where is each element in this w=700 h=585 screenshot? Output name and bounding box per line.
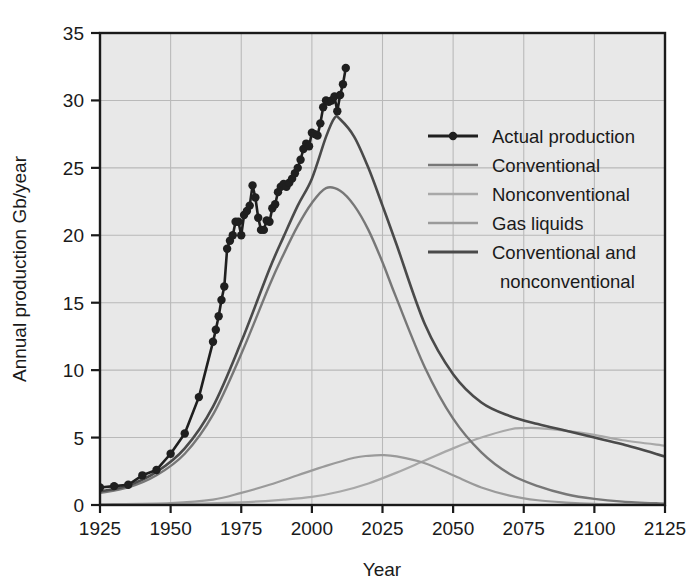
data-point-marker xyxy=(110,482,118,490)
data-point-marker xyxy=(248,181,256,189)
data-point-marker xyxy=(260,226,268,234)
y-axis-title: Annual production Gb/year xyxy=(9,155,30,382)
data-point-marker xyxy=(181,429,189,437)
data-point-marker xyxy=(333,107,341,115)
data-point-marker xyxy=(229,231,237,239)
data-point-marker xyxy=(251,193,259,201)
data-point-marker xyxy=(138,471,146,479)
legend-label: Conventional xyxy=(492,155,600,176)
legend-label: Conventional and xyxy=(492,242,636,263)
y-tick-label: 15 xyxy=(63,293,84,314)
data-point-marker xyxy=(305,142,313,150)
data-point-marker xyxy=(124,481,132,489)
legend-label: nonconventional xyxy=(500,271,635,292)
x-tick-label: 1975 xyxy=(220,518,262,539)
y-tick-label: 20 xyxy=(63,225,84,246)
data-point-marker xyxy=(223,245,231,253)
data-point-marker xyxy=(313,131,321,139)
x-tick-label: 2075 xyxy=(503,518,545,539)
data-point-marker xyxy=(254,214,262,222)
x-tick-label: 2050 xyxy=(432,518,474,539)
x-tick-label: 2100 xyxy=(573,518,615,539)
x-axis-title: Year xyxy=(363,559,402,580)
data-point-marker xyxy=(234,218,242,226)
x-tick-label: 2125 xyxy=(644,518,686,539)
data-point-marker xyxy=(166,450,174,458)
x-tick-label: 2000 xyxy=(291,518,333,539)
x-axis: 192519501975200020252050207521002125 xyxy=(79,505,686,539)
data-point-marker xyxy=(220,282,228,290)
x-tick-label: 1925 xyxy=(79,518,121,539)
legend-label: Gas liquids xyxy=(492,213,584,234)
data-point-marker xyxy=(271,200,279,208)
data-point-marker xyxy=(339,80,347,88)
data-point-marker xyxy=(152,466,160,474)
x-tick-label: 1950 xyxy=(149,518,191,539)
data-point-marker xyxy=(237,231,245,239)
data-point-marker xyxy=(246,201,254,209)
legend-entry: nonconventional xyxy=(500,271,635,292)
data-point-marker xyxy=(209,338,217,346)
y-tick-label: 35 xyxy=(63,23,84,44)
data-point-marker xyxy=(342,64,350,72)
oil-production-chart: 192519501975200020252050207521002125 051… xyxy=(0,0,700,585)
y-tick-label: 5 xyxy=(73,428,84,449)
data-point-marker xyxy=(265,218,273,226)
y-tick-label: 0 xyxy=(73,495,84,516)
y-tick-label: 10 xyxy=(63,360,84,381)
data-point-marker xyxy=(217,296,225,304)
legend-swatch-dot xyxy=(449,132,457,140)
data-point-marker xyxy=(296,156,304,164)
data-point-marker xyxy=(195,393,203,401)
data-point-marker xyxy=(294,164,302,172)
y-tick-label: 30 xyxy=(63,90,84,111)
legend-label: Nonconventional xyxy=(492,184,630,205)
data-point-marker xyxy=(316,119,324,127)
x-tick-label: 2025 xyxy=(361,518,403,539)
data-point-marker xyxy=(214,312,222,320)
y-tick-label: 25 xyxy=(63,158,84,179)
legend-label: Actual production xyxy=(492,126,635,147)
data-point-marker xyxy=(336,91,344,99)
chart-figure: 192519501975200020252050207521002125 051… xyxy=(0,0,700,585)
data-point-marker xyxy=(212,325,220,333)
